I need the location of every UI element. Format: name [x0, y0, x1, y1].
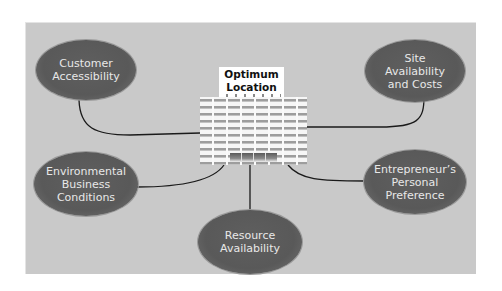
node-resource-availability: Resource Availability	[198, 210, 302, 274]
office-building-icon	[200, 97, 307, 165]
node-entrepreneurs-personal-preference: Entrepreneur’s Personal Preference	[364, 150, 466, 214]
node-customer-accessibility: Customer Accessibility	[36, 40, 136, 100]
node-site-availability-and-costs: Site Availability and Costs	[365, 40, 465, 102]
connector-entrepreneur	[288, 165, 364, 181]
building-entrance	[230, 153, 277, 162]
node-label: Site Availability and Costs	[385, 52, 445, 91]
node-label: Resource Availability	[220, 229, 280, 255]
node-label: Environmental Business Conditions	[46, 165, 126, 204]
title-line-2: Location	[219, 81, 284, 94]
node-environmental-business-conditions: Environmental Business Conditions	[34, 152, 138, 216]
connector-environmental	[137, 165, 224, 187]
title-line-1: Optimum	[219, 68, 284, 81]
node-label: Entrepreneur’s Personal Preference	[374, 163, 456, 202]
connector-customer-accessibility	[79, 100, 200, 135]
node-label: Customer Accessibility	[52, 57, 120, 83]
